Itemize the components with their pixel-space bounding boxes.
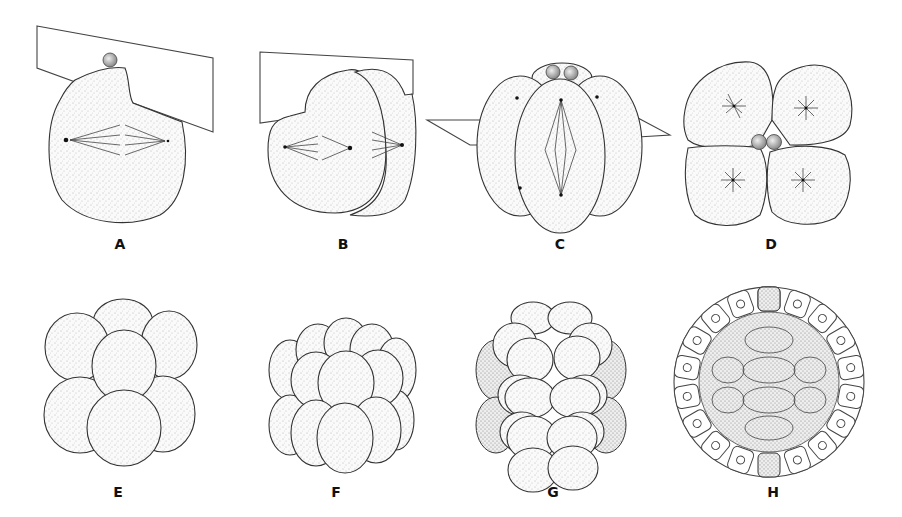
polar-body <box>767 135 782 150</box>
panel-e-eight-cell <box>44 299 197 466</box>
centrosome <box>518 186 522 190</box>
blastomere <box>685 146 766 226</box>
panel-label-a: A <box>115 236 126 252</box>
centrosome <box>167 140 170 143</box>
panel-label-b: B <box>338 236 349 252</box>
panel-label-f: F <box>331 484 341 500</box>
centrosome <box>595 95 599 99</box>
panel-c-cleavage <box>427 63 670 233</box>
blastomere <box>772 65 852 145</box>
panel-f-sixteen-cell <box>269 318 416 473</box>
centrosome <box>559 98 563 102</box>
panel-a-zygote <box>37 26 213 223</box>
centrosome <box>515 96 519 100</box>
polar-body <box>546 65 560 79</box>
cleavage-plane-right <box>638 118 670 137</box>
cleavage-figure <box>0 0 902 517</box>
panel-label-h: H <box>767 484 779 500</box>
panel-label-c: C <box>555 236 565 252</box>
polar-body <box>564 66 578 80</box>
centrosome <box>559 193 563 197</box>
centrosome <box>348 146 352 150</box>
centrosome <box>64 138 69 143</box>
polar-body <box>752 135 767 150</box>
panel-label-d: D <box>765 236 777 252</box>
centrosome <box>283 145 287 149</box>
panel-d-four-cell <box>684 62 852 226</box>
panel-b-two-cell <box>260 52 416 216</box>
centrosome <box>400 143 404 147</box>
panel-g-morula <box>476 302 626 492</box>
panel-label-e: E <box>113 484 123 500</box>
panel-label-g: G <box>547 484 559 500</box>
polar-body <box>103 53 117 67</box>
